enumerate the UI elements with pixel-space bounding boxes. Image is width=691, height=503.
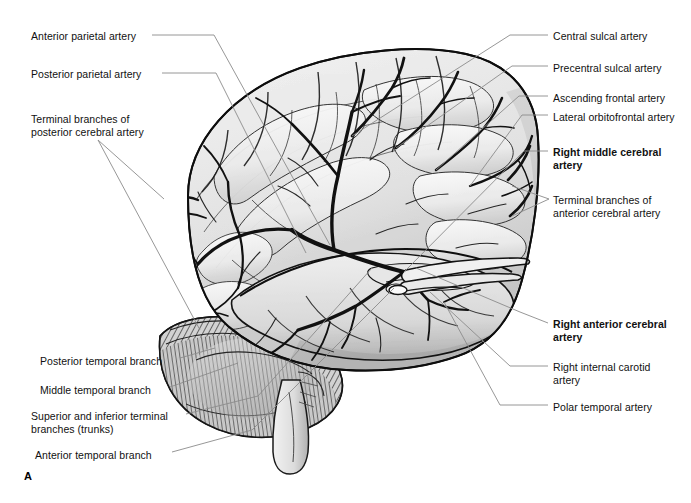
label-terminal-branches-posterior-cerebral-artery: Terminal branches of posterior cerebral … [31,113,144,138]
label-middle-temporal-branch: Middle temporal branch [40,384,151,397]
label-ascending-frontal-artery: Ascending frontal artery [553,92,665,105]
label-terminal-branches-anterior-cerebral-artery: Terminal branches of anterior cerebral a… [553,194,660,219]
panel-label: A [24,470,32,482]
label-polar-temporal-artery: Polar temporal artery [553,401,652,414]
label-right-internal-carotid-artery: Right internal carotid artery [553,361,650,386]
label-superior-inferior-terminal-branches-trunks: Superior and inferior terminal branches … [31,410,168,435]
label-posterior-temporal-branch: Posterior temporal branch [40,355,162,368]
label-right-anterior-cerebral-artery: Right anterior cerebral artery [553,318,667,343]
label-lateral-orbitofrontal-artery: Lateral orbitofrontal artery [553,111,675,124]
label-central-sulcal-artery: Central sulcal artery [553,30,647,43]
label-anterior-parietal-artery: Anterior parietal artery [31,30,136,43]
label-anterior-temporal-branch: Anterior temporal branch [35,449,152,462]
label-precentral-sulcal-artery: Precentral sulcal artery [553,62,662,75]
label-posterior-parietal-artery: Posterior parietal artery [31,68,141,81]
label-right-middle-cerebral-artery: Right middle cerebral artery [553,146,661,171]
